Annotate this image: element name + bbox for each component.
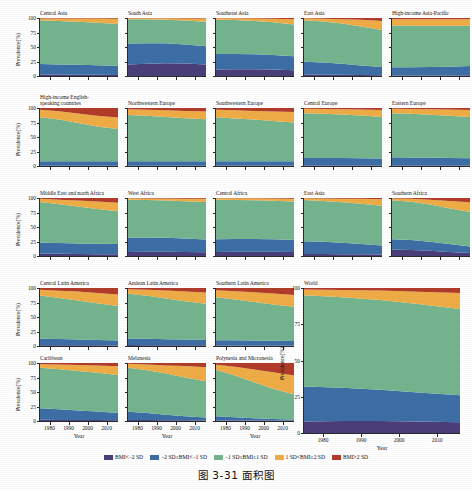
panel-title: Central Asia [40, 10, 67, 16]
y-tick [125, 137, 128, 138]
legend-item[interactable]: BMI<−2 SD [104, 454, 143, 460]
x-tick [50, 167, 51, 170]
legend-item[interactable]: 1 SD<BMI≤2 SD [275, 454, 325, 460]
x-tick [157, 257, 158, 260]
x-tick [421, 257, 422, 260]
area-band [40, 243, 118, 255]
plot-area[interactable] [128, 288, 206, 346]
plot-area[interactable] [216, 18, 294, 76]
x-tick-label: 2010 [184, 425, 206, 431]
x-tick [245, 77, 246, 80]
stacked-area-svg [128, 108, 206, 166]
area-band [392, 18, 470, 19]
x-tick-label: 2010 [426, 437, 448, 443]
x-tick [138, 257, 139, 260]
plot-area[interactable] [304, 108, 382, 166]
x-tick [69, 257, 70, 260]
y-tick-label: 100 [282, 285, 300, 291]
y-tick [37, 332, 40, 333]
y-tick [125, 363, 128, 364]
x-tick [264, 77, 265, 80]
stacked-area-svg [128, 288, 206, 346]
stacked-area-svg [392, 198, 470, 256]
y-tick-label: 0 [18, 73, 36, 79]
plot-area[interactable] [128, 198, 206, 256]
stacked-area-svg [392, 18, 470, 76]
y-tick [389, 33, 392, 34]
panel-title: Northwestern Europe [128, 100, 175, 106]
y-tick [301, 108, 304, 109]
y-tick-label: 100 [18, 195, 36, 201]
legend-item[interactable]: −2 SD≤BMI<−1 SD [150, 454, 207, 460]
legend-item[interactable]: BMI>2 SD [332, 454, 368, 460]
panel-title: Caribbean [40, 355, 63, 361]
y-tick [213, 76, 216, 77]
y-tick [301, 198, 304, 199]
plot-area[interactable] [128, 18, 206, 76]
plot-area[interactable] [304, 18, 382, 76]
legend-item[interactable]: −1 SD≤BMI≤1 SD [214, 454, 268, 460]
x-tick [195, 257, 196, 260]
y-tick [213, 123, 216, 124]
x-tick [402, 77, 403, 80]
x-tick [50, 257, 51, 260]
y-tick [389, 108, 392, 109]
area-band [216, 161, 294, 165]
y-tick [213, 392, 216, 393]
y-tick-label: 0 [18, 418, 36, 424]
x-tick-label: 1980 [312, 437, 334, 443]
y-tick [389, 62, 392, 63]
x-tick [283, 257, 284, 260]
y-tick [37, 227, 40, 228]
stacked-area-svg [40, 198, 118, 256]
plot-area[interactable] [128, 108, 206, 166]
y-tick-label: 0 [18, 253, 36, 259]
y-tick [389, 213, 392, 214]
y-tick [213, 421, 216, 422]
y-tick [125, 392, 128, 393]
plot-area[interactable] [216, 198, 294, 256]
x-tick [440, 167, 441, 170]
plot-area[interactable] [392, 198, 470, 256]
panel-title: Central Europe [304, 100, 337, 106]
y-tick [389, 152, 392, 153]
x-tick [440, 77, 441, 80]
stacked-area-svg [304, 108, 382, 166]
plot-area[interactable] [40, 363, 118, 421]
y-tick [37, 392, 40, 393]
plot-area[interactable] [128, 363, 206, 421]
y-tick [213, 256, 216, 257]
plot-area[interactable] [216, 108, 294, 166]
y-tick [125, 152, 128, 153]
y-axis-label: Prevalence(%) [15, 123, 21, 156]
stacked-area-svg [40, 363, 118, 421]
panel-title: East Asia [304, 10, 325, 16]
y-tick [125, 421, 128, 422]
y-tick-label: 100 [18, 360, 36, 366]
area-band [128, 200, 206, 240]
y-tick [37, 108, 40, 109]
plot-area[interactable] [40, 108, 118, 166]
plot-area[interactable] [216, 288, 294, 346]
panel-title: High-income Asia-Pacific [392, 10, 449, 16]
area-band [40, 20, 118, 65]
y-tick [301, 47, 304, 48]
plot-area[interactable] [392, 108, 470, 166]
figure-caption: 图 3-31 面积图 [0, 467, 472, 482]
legend-swatch-icon [275, 455, 284, 460]
y-tick [213, 47, 216, 48]
plot-area[interactable] [40, 198, 118, 256]
x-tick [264, 167, 265, 170]
legend-label: 1 SD<BMI≤2 SD [286, 454, 325, 460]
plot-area[interactable] [40, 18, 118, 76]
y-tick [301, 288, 304, 289]
plot-area[interactable] [304, 288, 460, 433]
y-tick [37, 123, 40, 124]
plot-area[interactable] [304, 198, 382, 256]
y-tick [37, 421, 40, 422]
x-tick [371, 257, 372, 260]
y-tick [37, 76, 40, 77]
plot-area[interactable] [392, 18, 470, 76]
y-tick [125, 256, 128, 257]
plot-area[interactable] [40, 288, 118, 346]
